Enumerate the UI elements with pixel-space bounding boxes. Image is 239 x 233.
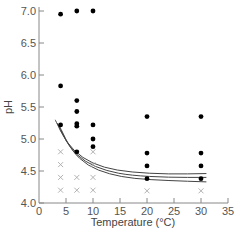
y-tick-label: 6.0 bbox=[21, 69, 36, 81]
no-growth-point bbox=[74, 188, 79, 193]
growth-point bbox=[199, 176, 204, 181]
growth-point bbox=[58, 83, 63, 88]
scatter-chart: 4.04.55.05.56.06.57.005101520253035 Temp… bbox=[0, 0, 239, 233]
y-tick-label: 5.0 bbox=[21, 133, 36, 145]
no-growth-point bbox=[58, 175, 63, 180]
growth-point bbox=[199, 114, 204, 119]
growth-point bbox=[145, 114, 150, 119]
no-growth-point bbox=[199, 188, 204, 193]
boundary-curve-middle bbox=[57, 123, 206, 177]
growth-point bbox=[74, 98, 79, 103]
growth-point bbox=[145, 151, 150, 156]
growth-point bbox=[91, 123, 96, 128]
growth-point bbox=[199, 151, 204, 156]
growth-point bbox=[145, 163, 150, 168]
growth-point bbox=[74, 124, 79, 129]
no-growth-point bbox=[91, 149, 96, 154]
growth-point bbox=[91, 137, 96, 142]
y-tick-label: 5.5 bbox=[21, 101, 36, 113]
growth-point bbox=[145, 176, 150, 181]
x-tick-label: 35 bbox=[222, 205, 234, 217]
no-growth-point bbox=[58, 149, 63, 154]
no-growth-point bbox=[74, 175, 79, 180]
y-tick-label: 6.5 bbox=[21, 37, 36, 49]
y-tick-label: 7.0 bbox=[21, 5, 36, 17]
growth-point bbox=[58, 123, 63, 128]
x-tick-label: 30 bbox=[195, 205, 207, 217]
no-growth-point bbox=[145, 188, 150, 193]
axes: 4.04.55.05.56.06.57.005101520253035 bbox=[21, 5, 234, 217]
no-growth-point bbox=[91, 188, 96, 193]
x-axis-title: Temperature (°C) bbox=[91, 216, 175, 228]
y-tick-label: 4.0 bbox=[21, 197, 36, 209]
growth-point bbox=[74, 149, 79, 154]
no-growth-point bbox=[58, 162, 63, 167]
no-growth-point bbox=[58, 188, 63, 193]
x-tick-label: 0 bbox=[36, 205, 42, 217]
x-tick-label: 5 bbox=[63, 205, 69, 217]
growth-point bbox=[91, 9, 96, 14]
growth-point bbox=[74, 9, 79, 14]
growth-point bbox=[91, 144, 96, 149]
growth-point bbox=[58, 12, 63, 17]
growth-point bbox=[199, 163, 204, 168]
y-axis-title: pH bbox=[2, 100, 14, 114]
data-points bbox=[58, 9, 203, 194]
no-growth-point bbox=[91, 175, 96, 180]
growth-point bbox=[74, 109, 79, 114]
y-tick-label: 4.5 bbox=[21, 165, 36, 177]
